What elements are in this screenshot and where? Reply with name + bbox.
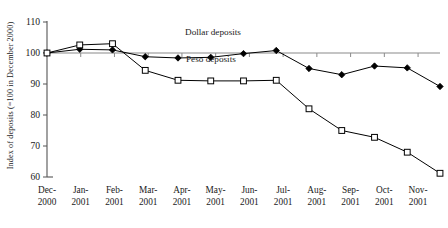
y-axis-tick-label: 70 (14, 141, 40, 151)
y-axis-tick-label: 110 (14, 17, 40, 27)
y-axis-tick-label: 100 (14, 48, 40, 58)
x-axis-tick-label: Nov-2001 (398, 185, 438, 209)
deposits-index-chart: Index of deposits (=100 in December 2000… (0, 0, 448, 228)
y-axis-tick-label: 90 (14, 79, 40, 89)
series-label-dollar: Dollar deposits (185, 27, 241, 37)
y-axis-tick-label: 60 (14, 172, 40, 182)
y-axis-label-container: Index of deposits (=100 in December 2000… (0, 0, 22, 190)
y-axis-tick-label: 80 (14, 110, 40, 120)
x-tick-year: 2001 (398, 197, 438, 209)
series-label-peso: Peso deposits (186, 54, 236, 64)
x-tick-month: Nov- (398, 185, 438, 197)
